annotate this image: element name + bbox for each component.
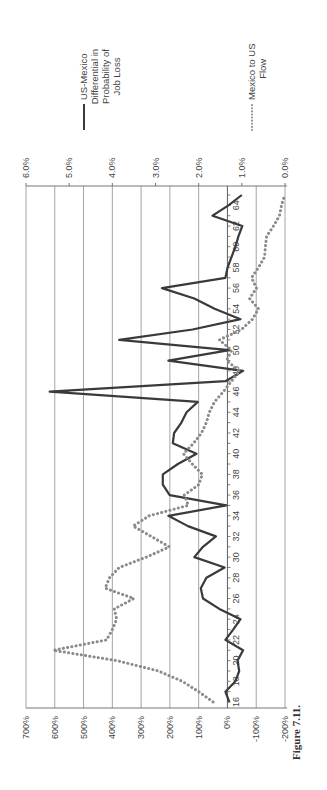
category-tick-label: 36 — [231, 490, 241, 500]
left-axis-tick: 400% — [107, 716, 117, 739]
left-axis-tick: 500% — [79, 716, 89, 739]
right-axis-tick: 6.0% — [21, 157, 31, 178]
rotated-line-chart: 700%600%500%400%300%200%100%0%-100%-200%… — [0, 0, 327, 790]
category-tick-label: 32 — [231, 531, 241, 541]
figure-caption: Figure 7.11. — [290, 705, 302, 760]
category-tick-label: 42 — [231, 428, 241, 438]
right-axis-tick: 5.0% — [64, 157, 74, 178]
left-axis-tick: 200% — [165, 716, 175, 739]
left-axis-tick: 0% — [222, 716, 232, 729]
category-tick-label: 44 — [231, 407, 241, 417]
right-axis-tick-labels: 6.0%5.0%4.0%3.0%2.0%1.0%0.0% — [21, 157, 290, 178]
right-axis-tick: 3.0% — [151, 157, 161, 178]
category-tick-label: 58 — [231, 262, 241, 272]
legend-label: Mexico to US — [246, 44, 257, 101]
legend-label: Flow — [257, 59, 268, 79]
category-tick-label: 38 — [231, 469, 241, 479]
legend-label: Probability of — [100, 49, 111, 104]
legend: US-MexicoDifferential inProbability ofJo… — [78, 44, 268, 131]
left-axis-tick: -100% — [251, 716, 261, 742]
left-axis-tick: -200% — [280, 716, 290, 742]
category-tick-label: 56 — [231, 283, 241, 293]
plot-area-frame — [26, 183, 287, 708]
category-tick-label: 30 — [231, 552, 241, 562]
legend-label: US-Mexico — [78, 54, 89, 100]
category-tick-label: 40 — [231, 449, 241, 459]
left-axis-tick: 700% — [21, 716, 31, 739]
category-tick-label: 46 — [231, 387, 241, 397]
gridlines — [26, 186, 285, 708]
left-axis-tick: 300% — [136, 716, 146, 739]
right-axis-tick: 0.0% — [280, 157, 290, 178]
legend-label: Differential in — [89, 49, 100, 104]
category-tick-label: 50 — [231, 345, 241, 355]
series-us-mexico-differential — [50, 195, 243, 702]
series-mexico-to-us-flow — [53, 195, 284, 702]
category-tick-label: 54 — [231, 304, 241, 314]
right-axis-tick: 2.0% — [194, 157, 204, 178]
left-axis-tick: 100% — [194, 716, 204, 739]
category-tick-label: 16 — [231, 697, 241, 707]
right-axis-tick: 4.0% — [107, 157, 117, 178]
left-axis-tick: 600% — [50, 716, 60, 739]
left-axis-tick-labels: 700%600%500%400%300%200%100%0%-100%-200% — [21, 716, 290, 742]
category-tick-label: 26 — [231, 594, 241, 604]
category-tick-label: 28 — [231, 573, 241, 583]
series-layer — [50, 195, 285, 702]
right-axis-tick: 1.0% — [237, 157, 247, 178]
category-tick-label: 34 — [231, 511, 241, 521]
legend-label: Job Loss — [111, 57, 122, 95]
